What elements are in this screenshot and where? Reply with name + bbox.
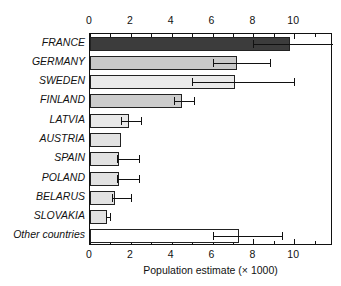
error-bar-finland [174,101,194,102]
category-label-other-countries: Other countries [0,228,85,240]
error-bar-latvia [121,121,141,122]
bar-finland [90,94,182,108]
x-tick-label-top-2: 2 [127,14,133,26]
category-label-poland: POLAND [0,171,85,183]
error-cap-high-belarus [131,194,132,202]
error-cap-low-finland [174,97,175,105]
x-tick-label-bottom-2: 2 [127,248,133,260]
bar-austria [90,133,121,147]
category-label-finland: FINLAND [0,93,85,105]
error-cap-low-germany [213,59,214,67]
population-estimate-bar-chart: 0246810 0246810 FRANCEGERMANYSWEDENFINLA… [0,0,341,286]
error-cap-low-other-countries [213,232,214,240]
error-bar-other-countries [213,236,282,237]
error-bar-poland [117,179,139,180]
bar-spain [90,152,119,166]
error-cap-high-spain [139,155,140,163]
category-label-austria: AUSTRIA [0,132,85,144]
error-cap-high-other-countries [282,232,283,240]
error-cap-low-poland [117,175,118,183]
category-label-spain: SPAIN [0,151,85,163]
bar-slovakia [90,210,107,224]
error-cap-high-sweden [294,78,295,86]
error-bar-spain [117,159,139,160]
x-tick-label-top-6: 6 [209,14,215,26]
x-tick-label-bottom-0: 0 [86,248,92,260]
error-cap-high-finland [194,97,195,105]
category-label-germany: GERMANY [0,55,85,67]
x-axis-title: Population estimate (× 1000) [89,264,332,276]
error-cap-low-spain [117,155,118,163]
category-label-sweden: SWEDEN [0,74,85,86]
error-bar-france [253,44,333,45]
bar-poland [90,172,119,186]
error-cap-low-sweden [192,78,193,86]
error-cap-high-germany [270,59,271,67]
plot-area [89,33,332,245]
category-label-france: FRANCE [0,36,85,48]
error-cap-low-latvia [121,117,122,125]
error-cap-low-belarus [112,194,113,202]
x-tick-label-top-10: 10 [287,14,299,26]
error-cap-low-slovakia [106,213,107,221]
x-tick-label-top-8: 8 [249,14,255,26]
error-bar-belarus [112,198,130,199]
error-cap-high-latvia [141,117,142,125]
error-cap-low-france [253,40,254,48]
bar-series [90,34,331,244]
category-label-latvia: LATVIA [0,113,85,125]
x-tick-label-bottom-4: 4 [168,248,174,260]
error-cap-high-poland [139,175,140,183]
x-tick-label-bottom-6: 6 [209,248,215,260]
error-cap-high-slovakia [110,213,111,221]
x-tick-label-top-0: 0 [86,14,92,26]
error-bar-germany [213,63,270,64]
error-bar-sweden [192,82,294,83]
category-label-slovakia: SLOVAKIA [0,209,85,221]
x-tick-label-top-4: 4 [168,14,174,26]
x-tick-label-bottom-10: 10 [287,248,299,260]
bar-belarus [90,191,115,205]
x-tick-label-bottom-8: 8 [249,248,255,260]
category-label-belarus: BELARUS [0,190,85,202]
